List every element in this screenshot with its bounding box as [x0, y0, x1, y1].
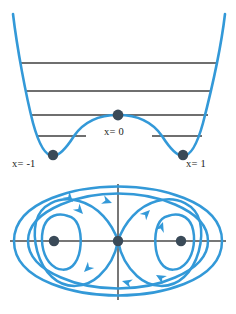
flow-arrow-top [101, 195, 113, 207]
right-center-dot [176, 236, 186, 246]
central-maximum-dot [113, 110, 124, 121]
flow-arrow-lower-left [81, 262, 94, 275]
left-minimum-dot [48, 150, 58, 160]
label-x-equals-0: x= 0 [104, 126, 124, 137]
inner-orbit-left [42, 214, 81, 269]
saddle-point-dot [113, 236, 123, 246]
figure-canvas: x= 0 x= -1 x= 1 [0, 0, 236, 314]
flow-arrow-upper-left-inner [73, 204, 86, 217]
double-well-and-phase-portrait-figure: x= 0 x= -1 x= 1 [0, 0, 236, 314]
label-x-equals-minus-1: x= -1 [12, 158, 36, 169]
potential-well-panel: x= 0 x= -1 x= 1 [12, 14, 225, 169]
phase-portrait-panel [10, 184, 226, 300]
label-x-equals-plus-1: x= 1 [186, 158, 206, 169]
left-center-dot [49, 236, 59, 246]
flow-arrow-bottom [121, 277, 133, 288]
inner-orbit-right [155, 214, 194, 269]
